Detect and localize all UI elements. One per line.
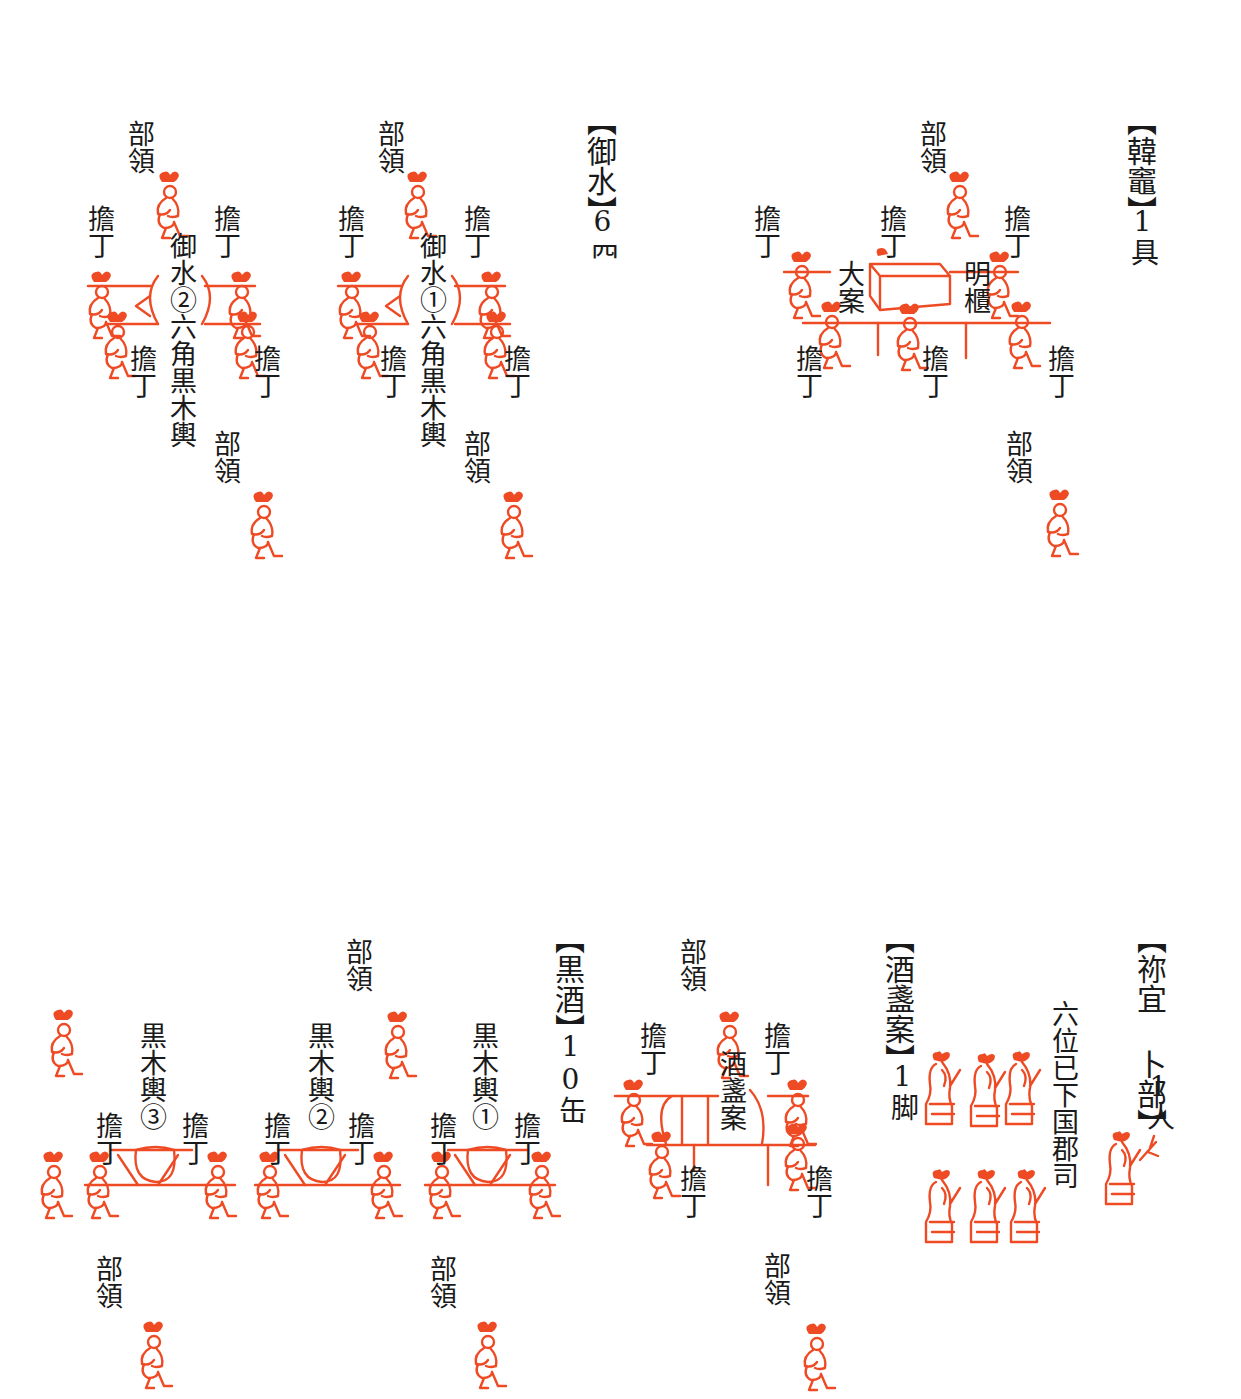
label-bearer: 擔丁 (794, 345, 821, 399)
label-bearer: 擔丁 (262, 1112, 289, 1166)
label-leader: 部領 (428, 1255, 455, 1309)
label-bearer: 擔丁 (94, 1112, 121, 1166)
section-title-kuroki: 【黒酒】 (552, 924, 582, 1044)
label-object-mitsubitsu: 明櫃 (962, 260, 989, 314)
label-bearer: 擔丁 (638, 1022, 665, 1076)
label-bearer: 擔丁 (212, 205, 239, 259)
label-bearer: 擔丁 (428, 1112, 455, 1166)
label-kego-1: 黒木輿① (470, 1022, 497, 1130)
label-leader: 部領 (462, 430, 489, 484)
label-palanquin-omimizu-1: 御水①六角黒木輿 (418, 232, 445, 448)
negi-urabe-drawing (926, 1051, 1158, 1242)
label-bearer: 擔丁 (752, 205, 779, 259)
label-bearer: 擔丁 (502, 345, 529, 399)
label-leader: 部領 (678, 938, 705, 992)
section-title-shusanan: 【酒盞案】 (882, 924, 912, 1074)
label-kego-3: 黒木輿③ (138, 1022, 165, 1130)
procession-illustration (0, 0, 1241, 1399)
label-bearer: 擔丁 (1002, 205, 1029, 259)
label-palanquin-omimizu-2: 御水②六角黒木輿 (168, 232, 195, 448)
label-leader: 部領 (212, 430, 239, 484)
label-leader: 部領 (94, 1255, 121, 1309)
label-object-daian: 大案 (836, 260, 863, 314)
label-bearer: 擔丁 (128, 345, 155, 399)
label-bearer: 擔丁 (378, 345, 405, 399)
label-bearer: 擔丁 (1046, 345, 1073, 399)
label-leader: 部領 (344, 938, 371, 992)
section-count-kuroki: 10缶 (556, 1030, 584, 1124)
label-bearer: 擔丁 (878, 205, 905, 259)
section-count-negi-urabe: 1人 (1144, 1070, 1172, 1131)
label-leader: 部領 (1004, 430, 1031, 484)
label-bearer: 擔丁 (678, 1165, 705, 1219)
label-bearer: 擔丁 (762, 1022, 789, 1076)
section-count-karakamado: 1具 (1128, 205, 1156, 266)
label-bearer: 擔丁 (462, 205, 489, 259)
label-leader: 部領 (126, 120, 153, 174)
label-bearer: 擔丁 (512, 1112, 539, 1166)
label-bearer: 擔丁 (920, 345, 947, 399)
label-bearer: 擔丁 (804, 1165, 831, 1219)
label-leader: 部領 (376, 120, 403, 174)
label-object-shusanan: 酒盞案 (718, 1050, 745, 1131)
label-bearer: 擔丁 (86, 205, 113, 259)
label-leader: 部領 (918, 120, 945, 174)
section-count-shusanan: 1脚 (888, 1060, 916, 1121)
section-count-omimizu: 6𦉪 (588, 205, 616, 266)
label-officials: 六位已下国郡司 (1050, 1000, 1077, 1189)
label-bearer: 擔丁 (346, 1112, 373, 1166)
label-leader: 部領 (762, 1252, 789, 1306)
label-kego-2: 黒木輿② (306, 1022, 333, 1130)
label-bearer: 擔丁 (180, 1112, 207, 1166)
label-bearer: 擔丁 (336, 205, 363, 259)
label-bearer: 擔丁 (252, 345, 279, 399)
